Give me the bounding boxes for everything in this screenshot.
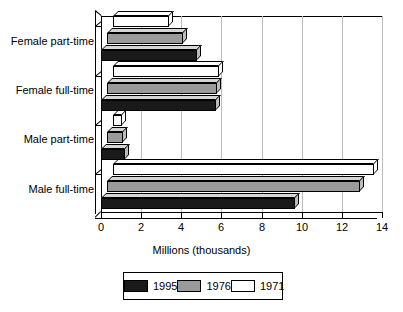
category-tick-mark-1 <box>95 125 102 126</box>
bar-female-part-time-1976[interactable] <box>107 33 183 44</box>
legend-item-1995[interactable]: 1995 <box>124 280 177 292</box>
bar-front-face <box>113 164 374 175</box>
axis-depth-connector-top <box>95 10 102 16</box>
x-tick-label-2: 2 <box>126 221 156 233</box>
bar-female-full-time-1971[interactable] <box>113 66 219 77</box>
x-tick-14 <box>382 213 383 218</box>
axis-depth-vertical <box>95 11 96 214</box>
bar-front-face <box>113 115 122 126</box>
x-tick-label-0: 0 <box>86 221 116 233</box>
legend-swatch-1976 <box>177 280 201 292</box>
x-tick-label-12: 12 <box>327 221 357 233</box>
y-axis-label-male-full-time: Male full-time <box>29 183 94 195</box>
bar-male-full-time-1971[interactable] <box>113 164 374 175</box>
plot-area <box>101 16 383 213</box>
legend-label-1971: 1971 <box>260 280 284 292</box>
category-tick-mark-2 <box>95 76 102 77</box>
x-tick-label-8: 8 <box>247 221 277 233</box>
axis-depth-baseline <box>95 218 377 219</box>
category-tick-mark-3 <box>95 26 102 27</box>
bar-male-full-time-1995[interactable] <box>101 198 295 209</box>
legend-swatch-1995 <box>124 280 148 292</box>
bar-male-part-time-1995[interactable] <box>101 149 125 160</box>
x-tick-label-4: 4 <box>166 221 196 233</box>
bar-male-full-time-1976[interactable] <box>107 181 360 192</box>
legend-item-1971[interactable]: 1971 <box>231 280 284 292</box>
legend-label-1976: 1976 <box>206 280 230 292</box>
bar-front-face <box>107 33 183 44</box>
x-tick-label-10: 10 <box>287 221 317 233</box>
bar-male-part-time-1971[interactable] <box>113 115 122 126</box>
bar-female-part-time-1995[interactable] <box>101 50 197 61</box>
gridline-14 <box>382 16 383 212</box>
category-tick-mark-0 <box>95 174 102 175</box>
bar-female-full-time-1976[interactable] <box>107 83 217 94</box>
plot-frame-bottom <box>101 212 383 213</box>
y-axis-label-female-full-time: Female full-time <box>16 84 94 96</box>
x-tick-label-6: 6 <box>206 221 236 233</box>
legend-label-1995: 1995 <box>153 280 177 292</box>
bar-front-face <box>107 83 217 94</box>
y-axis-label-female-part-time: Female part-time <box>11 35 94 47</box>
bar-female-full-time-1995[interactable] <box>101 100 216 111</box>
chart-legend: 1995 1976 1971 <box>123 272 283 300</box>
plot-frame-left <box>101 16 102 213</box>
bar-front-face <box>101 149 125 160</box>
bar-front-face <box>113 16 169 27</box>
bar-front-face <box>107 181 360 192</box>
bar-female-part-time-1971[interactable] <box>113 16 169 27</box>
legend-swatch-1971 <box>231 280 255 292</box>
bar-front-face <box>101 198 295 209</box>
y-axis-label-male-part-time: Male part-time <box>24 133 94 145</box>
x-tick-label-14: 14 <box>367 221 397 233</box>
bar-front-face <box>113 66 219 77</box>
bar-front-face <box>107 132 123 143</box>
legend-item-1976[interactable]: 1976 <box>177 280 230 292</box>
bar-front-face <box>101 50 197 61</box>
bar-front-face <box>101 100 216 111</box>
bar-chart: Male full-timeMale part-timeFemale full-… <box>0 0 403 312</box>
bar-male-part-time-1976[interactable] <box>107 132 123 143</box>
x-axis-title: Millions (thousands) <box>0 244 403 256</box>
